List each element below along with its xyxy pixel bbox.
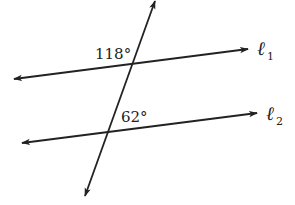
subscript: 2	[276, 115, 283, 128]
angle-label-62: 62°	[121, 108, 148, 126]
diagram-canvas: 118° 62° ℓ 1 ℓ 2	[0, 0, 295, 205]
line-label-l2: ℓ 2	[266, 102, 283, 128]
angle-label-118: 118°	[95, 45, 131, 63]
subscript: 1	[267, 50, 274, 63]
line-label-l1: ℓ 1	[257, 37, 274, 63]
ell-symbol: ℓ	[257, 37, 265, 59]
ell-symbol: ℓ	[266, 102, 274, 124]
transversal-line	[85, 1, 155, 196]
